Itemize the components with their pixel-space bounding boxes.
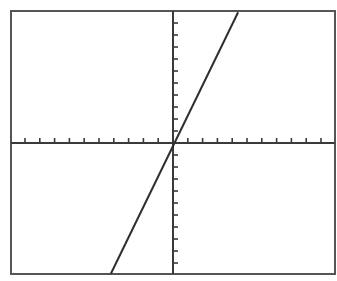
graph-plot xyxy=(0,0,337,281)
